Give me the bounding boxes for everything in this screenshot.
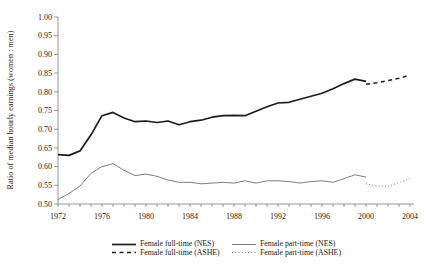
dashed-thick-line-swatch-icon [112, 249, 136, 256]
plot-svg: 0.500.550.600.650.700.750.800.850.900.95… [0, 0, 426, 236]
solid-thin-line-swatch-icon [232, 241, 256, 248]
y-tick-label: 0.65 [38, 144, 52, 153]
x-tick-label: 2000 [358, 212, 374, 221]
series-line-solid-thick [58, 79, 366, 155]
y-tick-label: 0.55 [38, 181, 52, 190]
y-tick-label: 0.75 [38, 106, 52, 115]
y-tick-label: 0.95 [38, 31, 52, 40]
y-tick-label: 0.90 [38, 50, 52, 59]
x-tick-label: 1984 [182, 212, 198, 221]
y-axis-title: Ratio of median hourly earnings (women :… [6, 30, 15, 189]
legend-column-full-time: Female full-time (NES) Female full-time … [112, 240, 232, 257]
x-tick-label: 1996 [314, 212, 330, 221]
solid-thick-line-swatch-icon [112, 241, 136, 248]
line-chart-figure: 0.500.550.600.650.700.750.800.850.900.95… [0, 0, 426, 273]
dotted-thin-line-swatch-icon [232, 249, 256, 256]
x-tick-label: 1992 [270, 212, 286, 221]
y-tick-label: 0.50 [38, 200, 52, 209]
legend: Female full-time (NES) Female full-time … [112, 240, 341, 257]
legend-label-female-full-time-ashe: Female full-time (ASHE) [140, 249, 220, 258]
y-tick-label: 1.00 [38, 13, 52, 22]
x-tick-label: 1976 [94, 212, 110, 221]
legend-label-female-part-time-ashe: Female part-time (ASHE) [260, 249, 341, 258]
legend-column-part-time: Female part-time (NES) Female part-time … [232, 240, 341, 257]
x-tick-label: 2004 [402, 212, 418, 221]
y-tick-label: 0.80 [38, 88, 52, 97]
y-tick-label: 0.85 [38, 69, 52, 78]
series-line-dotted-thin [366, 179, 410, 187]
series-line-dashed-thick [366, 75, 410, 84]
y-tick-label: 0.60 [38, 162, 52, 171]
series-line-solid-thin [58, 164, 366, 200]
y-tick-label: 0.70 [38, 125, 52, 134]
legend-item-female-full-time-ashe: Female full-time (ASHE) [112, 249, 232, 258]
x-tick-label: 1980 [138, 212, 154, 221]
x-tick-label: 1972 [50, 212, 66, 221]
legend-item-female-part-time-ashe: Female part-time (ASHE) [232, 249, 341, 258]
x-tick-label: 1988 [226, 212, 242, 221]
